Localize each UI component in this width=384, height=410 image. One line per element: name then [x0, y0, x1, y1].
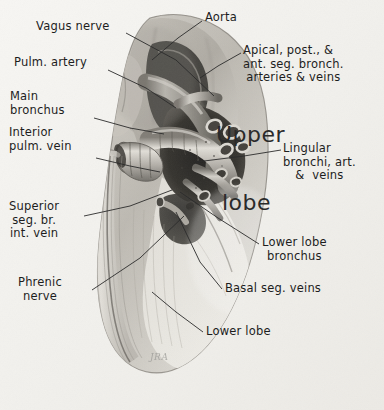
label-line: & veins: [283, 169, 356, 183]
label-line: Interior: [9, 126, 72, 140]
label-line: bronchus: [10, 104, 65, 118]
label-vagus-nerve: Vagus nerve: [36, 20, 109, 34]
label-line: ant. seg. bronch.: [243, 58, 344, 72]
label-line: bronchi, art.: [283, 156, 356, 170]
label-line: nerve: [18, 290, 62, 304]
label-lingular-bronchi-art-veins: Lingularbronchi, art.& veins: [283, 142, 356, 183]
artist-signature: JRA: [150, 352, 168, 362]
label-line: pulm. vein: [9, 140, 72, 154]
label-line: Apical, post., &: [243, 44, 344, 58]
label-line: int. vein: [9, 227, 59, 241]
overlay-label-upper: Upper: [216, 122, 285, 147]
label-interior-pulm-vein: Interiorpulm. vein: [9, 126, 72, 153]
label-line: Lower lobe: [262, 236, 327, 250]
label-apical-post-ant-seg-bronch-arteries-veins: Apical, post., &ant. seg. bronch.arterie…: [243, 44, 344, 85]
label-main-bronchus: Mainbronchus: [10, 90, 65, 117]
label-line: Aorta: [205, 11, 237, 25]
label-line: Pulm. artery: [14, 56, 87, 70]
label-pulm-artery: Pulm. artery: [14, 56, 87, 70]
label-line: Superior: [9, 200, 59, 214]
label-line: Phrenic: [18, 276, 62, 290]
label-aorta: Aorta: [205, 11, 237, 25]
label-basal-seg-veins: Basal seg. veins: [225, 282, 321, 296]
label-lower-lobe-bronchus: Lower lobebronchus: [262, 236, 327, 263]
label-line: Lower lobe: [206, 325, 271, 339]
label-line: seg. br.: [9, 214, 59, 228]
anatomy-figure: UpperlobeVagus nerveAortaApical, post., …: [0, 0, 384, 410]
label-line: Main: [10, 90, 65, 104]
label-line: Basal seg. veins: [225, 282, 321, 296]
label-superior-seg-br-int-vein: Superiorseg. br.int. vein: [9, 200, 59, 241]
label-line: arteries & veins: [243, 71, 344, 85]
label-line: Lingular: [283, 142, 356, 156]
label-line: Vagus nerve: [36, 20, 109, 34]
overlay-label-lobe: lobe: [222, 190, 271, 215]
label-lower-lobe: Lower lobe: [206, 325, 271, 339]
label-line: bronchus: [262, 250, 327, 264]
label-phrenic-nerve: Phrenicnerve: [18, 276, 62, 303]
